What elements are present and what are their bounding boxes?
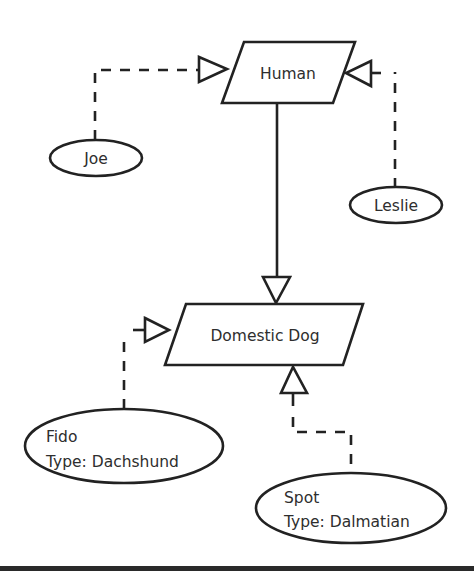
instance-name-leslie: Leslie (374, 197, 418, 215)
class-domestic-dog[interactable]: Domestic Dog (165, 304, 363, 365)
hollow-triangle-arrowhead-icon (346, 61, 371, 86)
instance-name-joe: Joe (83, 150, 108, 168)
hollow-triangle-arrowhead-icon (281, 367, 307, 393)
instance-joe[interactable]: Joe (50, 140, 142, 176)
instance-fido[interactable]: Fido Type: Dachshund (25, 409, 223, 483)
edge-human-to-domestic-dog (263, 103, 290, 303)
instance-leslie[interactable]: Leslie (350, 187, 442, 223)
instance-name-spot: Spot (284, 489, 319, 507)
edge-leslie-to-human (346, 61, 395, 188)
class-human[interactable]: Human (222, 42, 355, 103)
hollow-triangle-arrowhead-icon (263, 277, 290, 303)
dashed-connector (293, 417, 351, 473)
instance-spot[interactable]: Spot Type: Dalmatian (256, 473, 446, 543)
dashed-connector (95, 70, 199, 140)
edge-fido-to-domestic-dog (124, 318, 169, 409)
instance-ellipse-fido[interactable] (25, 409, 223, 483)
class-label-domestic-dog: Domestic Dog (210, 327, 319, 345)
edge-joe-to-human (95, 57, 227, 140)
hollow-triangle-arrowhead-icon (199, 57, 227, 82)
class-label-human: Human (260, 65, 316, 83)
instance-ellipse-spot[interactable] (256, 473, 446, 543)
diagram-canvas: Human Domestic Dog Joe Leslie Fido Type:… (0, 0, 474, 578)
instance-name-fido: Fido (46, 428, 77, 446)
edge-spot-to-domestic-dog (281, 367, 351, 473)
bottom-divider (0, 566, 474, 571)
instance-type-spot: Type: Dalmatian (283, 513, 410, 531)
instance-type-fido: Type: Dachshund (45, 453, 179, 471)
hollow-triangle-arrowhead-icon (145, 318, 169, 342)
